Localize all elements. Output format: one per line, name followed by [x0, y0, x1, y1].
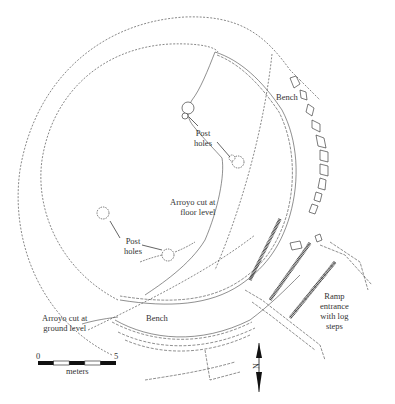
arroyo-ground-level-line — [18, 17, 300, 355]
arroyo-ground-label-l2: ground level — [42, 323, 87, 333]
arroyo-ground-diagonal — [88, 235, 255, 330]
post-holes-label-lower: Post holes — [124, 236, 142, 256]
post-holes-arrow-4 — [142, 245, 162, 250]
post-hole-upper-left — [182, 102, 194, 119]
post-holes-label-lower-l2: holes — [124, 246, 142, 256]
post-holes-label-upper-l1: Post — [194, 128, 212, 138]
post-hole-upper-right — [229, 155, 244, 168]
arroyo-ground-leader — [82, 317, 118, 324]
floor-edge-line — [145, 52, 223, 295]
arroyo-ground-label: Arroyo cut at ground level — [42, 313, 87, 333]
post-holes-arrow-3 — [110, 221, 120, 238]
ramp-label-l1: Ramp — [320, 291, 349, 301]
post-holes-label-upper: Post holes — [194, 128, 212, 148]
post-holes-label-upper-l2: holes — [194, 138, 212, 148]
north-label: N — [252, 363, 262, 369]
post-hole-lower-right — [140, 242, 195, 262]
arroyo-floor-label-l1: Arroyo cut at — [170, 197, 215, 207]
arroyo-floor-level-line — [41, 44, 218, 300]
scale-start-label: 0 — [36, 351, 40, 361]
ramp-label-l2: entrance — [320, 301, 349, 311]
post-hole-lower-left — [97, 207, 109, 219]
arroyo-ground-label-l1: Arroyo cut at — [42, 313, 87, 323]
scale-end-label: 5 — [114, 351, 118, 361]
arroyo-floor-label: Arroyo cut at floor level — [170, 197, 215, 217]
bench-label-upper: Bench — [276, 92, 298, 102]
lower-bench-stones — [112, 275, 300, 380]
ramp-label-l3: with log — [320, 311, 349, 321]
bench-label-lower: Bench — [146, 313, 168, 323]
scale-bar — [38, 361, 116, 365]
inner-wall-stones — [120, 52, 296, 304]
post-holes-label-lower-l1: Post — [124, 236, 142, 246]
scale-unit-label: meters — [66, 366, 89, 376]
ramp-entrance-label: Ramp entrance with log steps — [320, 291, 349, 331]
arroyo-floor-label-l2: floor level — [170, 207, 215, 217]
ramp-label-l4: steps — [320, 321, 349, 331]
